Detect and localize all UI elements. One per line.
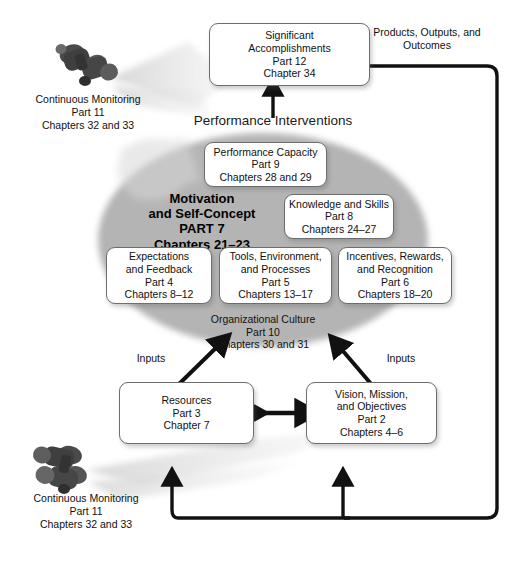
performance-capacity-line2: Part 9 bbox=[251, 158, 279, 171]
monitoring-top-line3: Chapters 32 and 33 bbox=[12, 119, 164, 132]
node-motivation-self-concept[interactable]: Motivation and Self-Concept PART 7 Chapt… bbox=[123, 191, 281, 252]
performance-capacity-line1: Performance Capacity bbox=[214, 146, 318, 159]
knowledge-line3: Chapters 24–27 bbox=[302, 223, 377, 236]
node-tools-environment-processes[interactable]: Tools, Environment, and Processes Part 5… bbox=[219, 247, 332, 304]
vision-line2: and Objectives bbox=[337, 400, 406, 413]
tools-line2: and Processes bbox=[241, 263, 310, 276]
accomplishments-line1: Significant bbox=[265, 29, 313, 42]
continuous-monitoring-top-label: Continuous Monitoring Part 11 Chapters 3… bbox=[12, 93, 164, 131]
products-line1: Products, Outputs, and bbox=[352, 26, 502, 39]
accomplishments-line3: Part 12 bbox=[273, 55, 307, 68]
diagram-canvas: Continuous Monitoring Part 11 Chapters 3… bbox=[0, 0, 526, 564]
vision-line3: Part 2 bbox=[357, 413, 385, 426]
continuous-monitoring-bottom-label: Continuous Monitoring Part 11 Chapters 3… bbox=[8, 492, 164, 530]
node-significant-accomplishments[interactable]: Significant Accomplishments Part 12 Chap… bbox=[209, 23, 370, 86]
expectations-line1: Expectations bbox=[129, 250, 189, 263]
resources-line1: Resources bbox=[161, 394, 211, 407]
monitoring-top-line1: Continuous Monitoring bbox=[12, 93, 164, 106]
binoculars-icon-top bbox=[52, 40, 124, 92]
node-organizational-culture[interactable]: Organizational Culture Part 10 Chapters … bbox=[193, 313, 333, 351]
incentives-line1: Incentives, Rewards, bbox=[346, 250, 443, 263]
knowledge-line2: Part 8 bbox=[325, 210, 353, 223]
accomplishments-line2: Accomplishments bbox=[248, 42, 330, 55]
inputs-label-left: Inputs bbox=[125, 352, 177, 365]
arrow-inputs-right bbox=[337, 344, 372, 385]
motivation-line2: and Self-Concept bbox=[123, 206, 281, 221]
tools-line1: Tools, Environment, bbox=[229, 250, 321, 263]
knowledge-line1: Knowledge and Skills bbox=[289, 198, 389, 211]
node-incentives-rewards-recognition[interactable]: Incentives, Rewards, and Recognition Par… bbox=[338, 247, 452, 304]
incentives-line2: and Recognition bbox=[357, 263, 433, 276]
vision-line1: Vision, Mission, bbox=[335, 388, 408, 401]
incentives-line3: Part 6 bbox=[381, 276, 409, 289]
monitoring-top-line2: Part 11 bbox=[12, 106, 164, 119]
binoculars-icon-bottom bbox=[24, 443, 102, 499]
resources-line2: Part 3 bbox=[172, 407, 200, 420]
monitoring-bottom-line2: Part 11 bbox=[8, 505, 164, 518]
resources-line3: Chapter 7 bbox=[163, 419, 209, 432]
node-vision-mission-objectives[interactable]: Vision, Mission, and Objectives Part 2 C… bbox=[306, 382, 437, 444]
vision-line4: Chapters 4–6 bbox=[340, 426, 403, 439]
performance-interventions-title: Performance Interventions bbox=[173, 113, 373, 128]
monitoring-bottom-line3: Chapters 32 and 33 bbox=[8, 518, 164, 531]
products-line2: Outcomes bbox=[352, 39, 502, 52]
inputs-label-right: Inputs bbox=[375, 352, 427, 365]
node-performance-capacity[interactable]: Performance Capacity Part 9 Chapters 28 … bbox=[204, 142, 327, 187]
motivation-line3: PART 7 bbox=[123, 221, 281, 236]
incentives-line4: Chapters 18–20 bbox=[358, 288, 433, 301]
tools-line4: Chapters 13–17 bbox=[238, 288, 313, 301]
org-culture-line3: Chapters 30 and 31 bbox=[193, 338, 333, 351]
node-expectations-and-feedback[interactable]: Expectations and Feedback Part 4 Chapter… bbox=[106, 247, 212, 304]
org-culture-line2: Part 10 bbox=[193, 326, 333, 339]
expectations-line2: and Feedback bbox=[126, 263, 193, 276]
node-resources[interactable]: Resources Part 3 Chapter 7 bbox=[119, 382, 254, 444]
accomplishments-line4: Chapter 34 bbox=[264, 67, 316, 80]
monitoring-bottom-line1: Continuous Monitoring bbox=[8, 492, 164, 505]
motivation-line1: Motivation bbox=[123, 191, 281, 206]
expectations-line3: Part 4 bbox=[145, 276, 173, 289]
performance-capacity-line3: Chapters 28 and 29 bbox=[219, 171, 311, 184]
org-culture-line1: Organizational Culture bbox=[193, 313, 333, 326]
expectations-line4: Chapters 8–12 bbox=[125, 288, 194, 301]
node-knowledge-and-skills[interactable]: Knowledge and Skills Part 8 Chapters 24–… bbox=[284, 194, 394, 239]
products-outputs-outcomes-label: Products, Outputs, and Outcomes bbox=[352, 26, 502, 51]
tools-line3: Part 5 bbox=[261, 276, 289, 289]
